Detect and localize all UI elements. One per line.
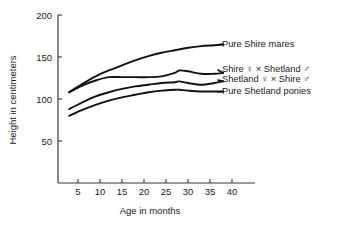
x-axis: 510152025303540 [58, 179, 255, 197]
y-tick-label: 150 [36, 52, 52, 63]
y-axis: 50100150200 [36, 10, 62, 184]
series-lines [69, 44, 223, 115]
series-label-3: Pure Shetland ponies [222, 86, 311, 96]
series-label-1: Shire ♀ × Shetland ♂ [222, 64, 310, 74]
series-label-0: Pure Shire mares [222, 39, 295, 49]
x-tick-label: 5 [75, 186, 80, 197]
y-tick-label: 50 [41, 136, 52, 147]
y-tick-label: 100 [36, 94, 52, 105]
x-tick-label: 25 [161, 186, 172, 197]
growth-curve-chart: 50100150200 510152025303540 Height in ce… [0, 0, 344, 230]
y-axis-title: Height in centimeters [7, 55, 18, 144]
y-tick-label: 200 [36, 10, 52, 21]
series-line-1 [69, 70, 223, 92]
series-line-2 [69, 81, 223, 109]
x-tick-label: 35 [205, 186, 216, 197]
x-tick-label: 15 [117, 186, 128, 197]
chart-figure: 50100150200 510152025303540 Height in ce… [0, 0, 344, 230]
series-labels: Pure Shire maresShire ♀ × Shetland ♂Shet… [222, 39, 311, 96]
series-label-2: Shetland ♀ × Shire ♂ [222, 74, 310, 84]
series-line-3 [69, 90, 223, 116]
x-tick-label: 20 [139, 186, 150, 197]
x-tick-group: 510152025303540 [75, 179, 237, 197]
x-tick-label: 10 [95, 186, 106, 197]
x-tick-label: 40 [227, 186, 238, 197]
x-axis-title: Age in months [120, 205, 181, 216]
x-tick-label: 30 [183, 186, 194, 197]
